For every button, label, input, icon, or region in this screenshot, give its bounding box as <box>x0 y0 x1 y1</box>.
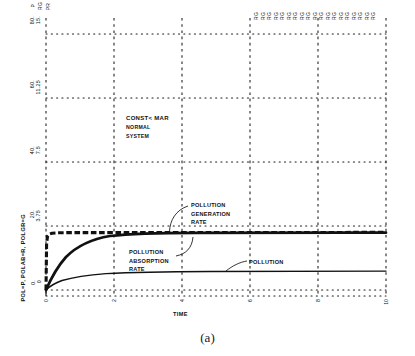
x-tick-0: 0 <box>44 299 49 302</box>
top-series-marker: RG <box>332 12 337 20</box>
y-tick-20: 20. 3.75 <box>30 210 42 222</box>
leader-pol <box>226 261 247 271</box>
x-tick-10: 10 <box>384 299 389 305</box>
annotation-system-note: CONST< MAR NORMAL SYSTEM <box>126 113 169 141</box>
top-series-marker: RG <box>254 12 259 20</box>
top-series-marker: RG <box>287 12 292 20</box>
top-series-marker: RG <box>280 12 285 20</box>
x-axis-title: TIME <box>173 311 188 317</box>
series-pol <box>46 271 386 290</box>
annotation-pollution: POLLUTION <box>249 258 284 267</box>
pgr-line-3: RATE <box>191 218 230 227</box>
top-series-marker: RG <box>293 12 298 20</box>
top-series-marker: RG <box>274 12 279 20</box>
y-tick-60-right: 11.25 <box>36 80 41 94</box>
annotation-pollution-absorption-rate: POLLUTION ABSORPTION RATE <box>129 248 169 274</box>
figure-caption: (a) <box>0 330 415 346</box>
leader-polab <box>176 237 193 256</box>
pgr-line-2: GENERATION <box>191 210 230 219</box>
y-tick-80-right: 15. <box>36 16 41 24</box>
y-tick-40-right: 7.5 <box>36 146 41 154</box>
top-series-marker: RG <box>319 12 324 20</box>
top-series-marker: RG <box>313 12 318 20</box>
y-axis-title: POL=P, POLAB=R, POLGR=G <box>21 214 27 302</box>
y-tick-0-right: 0 <box>37 280 42 283</box>
top-series-marker-strip: RGRGRGRGRGRGRGRGRGRGRGRGRGRGRGRGRGRGRG <box>254 12 378 20</box>
pol-line-1: POLLUTION <box>249 258 284 267</box>
note-line-2: NORMAL <box>126 123 169 132</box>
top-series-marker: RG <box>358 12 363 20</box>
leader-polgr <box>170 206 189 232</box>
par-line-2: ABSORPTION <box>129 257 169 266</box>
series-polab <box>46 233 386 290</box>
note-line-1: CONST< MAR <box>126 113 169 123</box>
grid-horizontal <box>46 34 386 290</box>
y-axis-key-p: P <box>31 4 36 8</box>
top-series-marker: RG <box>352 12 357 20</box>
top-series-marker: RG <box>306 12 311 20</box>
top-series-marker: RG <box>345 12 350 20</box>
y-tick-20-right: 3.75 <box>36 210 41 222</box>
y-tick-40: 40. 7.5 <box>30 146 42 154</box>
top-series-marker: RG <box>371 12 376 20</box>
grid-vertical <box>46 18 386 296</box>
pgr-line-1: POLLUTION <box>191 201 230 210</box>
note-line-3: SYSTEM <box>126 132 169 141</box>
x-tick-2: 2 <box>112 299 117 302</box>
par-line-3: RATE <box>129 265 169 274</box>
y-tick-0: 0. 0 <box>31 280 43 285</box>
axis-marker-pr: PR <box>46 3 51 10</box>
x-tick-4: 4 <box>180 299 185 302</box>
par-line-1: POLLUTION <box>129 248 169 257</box>
plot-canvas <box>0 0 415 356</box>
y-tick-60: 60. 11.25 <box>30 80 42 94</box>
annotation-pollution-generation-rate: POLLUTION GENERATION RATE <box>191 201 230 227</box>
y-tick-80: 80. 15. <box>30 16 42 24</box>
top-series-marker: RG <box>261 12 266 20</box>
figure-container: 80. 15. 60. 11.25 40. 7.5 20. 3.75 0. 0 … <box>0 0 415 356</box>
top-series-marker: RG <box>339 12 344 20</box>
x-tick-8: 8 <box>316 299 321 302</box>
top-series-marker: RG <box>365 12 370 20</box>
series-polgr <box>46 232 386 290</box>
top-series-marker: RG <box>300 12 305 20</box>
top-series-marker: RG <box>267 12 272 20</box>
top-series-marker: RG <box>326 12 331 20</box>
y-axis-key-rg: RG <box>38 2 43 10</box>
x-tick-6: 6 <box>248 299 253 302</box>
